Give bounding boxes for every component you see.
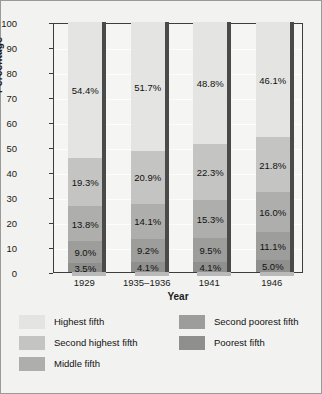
bar-segment-value-label: 16.0% (256, 206, 290, 217)
bar-segment[interactable]: 15.3% (193, 200, 227, 238)
stacked-bar[interactable]: 51.7%20.9%14.1%9.2%4.1% (131, 22, 165, 272)
bar-segment-value-label: 9.0% (68, 247, 102, 258)
legend-item[interactable]: Second highest fifth (19, 332, 137, 353)
legend-swatch (179, 336, 205, 350)
bar-segment-value-label: 11.1% (256, 240, 290, 251)
stacked-bar[interactable]: 54.4%19.3%13.8%9.0%3.5% (68, 22, 102, 272)
bar-segment[interactable]: 5.0% (256, 260, 290, 273)
legend-label: Poorest fifth (214, 337, 265, 348)
bar-base-shadow (260, 272, 294, 276)
bar-segment-value-label: 5.0% (256, 260, 290, 271)
x-axis-tick-label: 1946 (227, 277, 317, 288)
bar-segment-value-label: 19.3% (68, 177, 102, 188)
stacked-bar[interactable]: 48.8%22.3%15.3%9.5%4.1% (193, 22, 227, 272)
legend-item[interactable]: Middle fifth (19, 353, 137, 374)
bar-segment[interactable]: 19.3% (68, 158, 102, 206)
bar-segment[interactable]: 48.8% (193, 22, 227, 144)
bar-segment[interactable]: 9.2% (131, 239, 165, 262)
legend-swatch (19, 357, 45, 371)
legend-swatch (19, 315, 45, 329)
bar-segment[interactable]: 20.9% (131, 151, 165, 203)
bar-base-shadow (197, 272, 231, 276)
legend-label: Highest fifth (54, 316, 104, 327)
x-axis-title: Year (53, 291, 303, 302)
bar-segment[interactable]: 9.5% (193, 238, 227, 262)
y-axis-tick-label: 60 (0, 118, 17, 129)
bar-group: 54.4%19.3%13.8%9.0%3.5% (68, 24, 102, 272)
y-axis-tick-label: 90 (0, 43, 17, 54)
bar-segment[interactable]: 3.5% (68, 263, 102, 272)
bar-group: 51.7%20.9%14.1%9.2%4.1% (131, 24, 165, 272)
bar-segment-value-label: 54.4% (68, 85, 102, 96)
plot-area: 54.4%19.3%13.8%9.0%3.5%51.7%20.9%14.1%9.… (53, 23, 303, 273)
bar-segment[interactable]: 54.4% (68, 22, 102, 158)
chart-figure: Percentage 1009080706050403020100 54.4%1… (0, 0, 322, 394)
y-axis-tick-label: 0 (0, 268, 17, 279)
bar-segment[interactable]: 13.8% (68, 206, 102, 241)
bar-base-shadow (135, 272, 169, 276)
bar-segment[interactable]: 21.8% (256, 137, 290, 192)
legend-item[interactable]: Highest fifth (19, 311, 137, 332)
stacked-bar[interactable]: 46.1%21.8%16.0%11.1%5.0% (256, 22, 290, 272)
y-axis-tick-label: 30 (0, 193, 17, 204)
legend-column-left: Highest fifthSecond highest fifthMiddle … (19, 311, 137, 374)
legend-swatch (179, 315, 205, 329)
legend-item[interactable]: Second poorest fifth (179, 311, 299, 332)
legend-label: Second highest fifth (54, 337, 137, 348)
bar-segment[interactable]: 11.1% (256, 232, 290, 260)
bar-3d-side (102, 22, 106, 276)
bar-segment-value-label: 21.8% (256, 159, 290, 170)
bar-segment[interactable]: 22.3% (193, 144, 227, 200)
bar-3d-side (165, 22, 169, 276)
y-axis-tick-label: 100 (0, 18, 17, 29)
legend-label: Middle fifth (54, 358, 100, 369)
y-axis-tick-label: 70 (0, 93, 17, 104)
legend-item[interactable]: Poorest fifth (179, 332, 299, 353)
bar-segment[interactable]: 4.1% (131, 262, 165, 272)
bar-segment-value-label: 13.8% (68, 218, 102, 229)
bar-segment-value-label: 46.1% (256, 74, 290, 85)
bar-segment-value-label: 22.3% (193, 166, 227, 177)
legend-swatch (19, 336, 45, 350)
bar-segment-value-label: 48.8% (193, 78, 227, 89)
bar-series-container: 54.4%19.3%13.8%9.0%3.5%51.7%20.9%14.1%9.… (54, 24, 302, 272)
bar-group: 48.8%22.3%15.3%9.5%4.1% (193, 24, 227, 272)
y-axis-tick-label: 40 (0, 168, 17, 179)
bar-3d-side (227, 22, 231, 276)
bar-segment-value-label: 15.3% (193, 213, 227, 224)
y-axis-tick-label: 10 (0, 243, 17, 254)
bar-segment[interactable]: 9.0% (68, 241, 102, 264)
bar-3d-side (290, 22, 294, 276)
bar-segment[interactable]: 4.1% (193, 262, 227, 272)
legend-column-right: Second poorest fifthPoorest fifth (179, 311, 299, 353)
y-axis-tick-mark (49, 273, 53, 274)
legend-label: Second poorest fifth (214, 316, 299, 327)
bar-segment-value-label: 4.1% (131, 261, 165, 272)
legend: Highest fifthSecond highest fifthMiddle … (1, 311, 322, 383)
bar-segment-value-label: 20.9% (131, 172, 165, 183)
y-axis-tick-label: 80 (0, 68, 17, 79)
bar-group: 46.1%21.8%16.0%11.1%5.0% (256, 24, 290, 272)
y-axis-tick-label: 50 (0, 143, 17, 154)
y-axis-tick-label: 20 (0, 218, 17, 229)
bar-segment-value-label: 14.1% (131, 216, 165, 227)
plot-wrapper: Percentage 1009080706050403020100 54.4%1… (1, 1, 322, 301)
bar-segment-value-label: 4.1% (193, 261, 227, 272)
bar-segment-value-label: 9.5% (193, 244, 227, 255)
bar-segment[interactable]: 14.1% (131, 204, 165, 239)
bar-segment[interactable]: 51.7% (131, 22, 165, 151)
bar-segment[interactable]: 16.0% (256, 192, 290, 232)
bar-segment[interactable]: 46.1% (256, 22, 290, 137)
bar-base-shadow (72, 272, 106, 276)
bar-segment-value-label: 9.2% (131, 245, 165, 256)
bar-segment-value-label: 51.7% (131, 81, 165, 92)
